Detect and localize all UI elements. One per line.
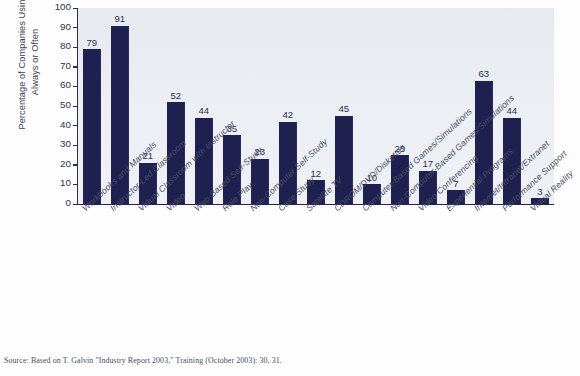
bar-slot: 79 (79, 8, 107, 204)
bar-value-label: 44 (191, 105, 217, 116)
y-axis-tick-label: 10 (45, 177, 71, 188)
y-axis-tick-label: 40 (45, 119, 71, 130)
chart-figure: Percentage of Companies Using Always or … (0, 0, 580, 376)
bar-value-label: 63 (471, 68, 497, 79)
bar-value-label: 79 (79, 37, 105, 48)
x-axis-labels: Workbooks and ManualsInstructor-Led Clas… (77, 206, 577, 346)
source-note: Source: Based on T. Galvin "Industry Rep… (4, 356, 282, 365)
y-axis-title-line-2: Always or Often (29, 0, 42, 152)
y-axis-tick-label: 70 (45, 60, 71, 71)
bar-value-label: 52 (163, 90, 189, 101)
y-axis-title-line-1: Percentage of Companies Using (16, 0, 29, 152)
y-axis-tick-label: 30 (45, 138, 71, 149)
bar-value-label: 42 (275, 109, 301, 120)
y-axis-tick-label: 100 (45, 1, 71, 12)
y-axis-tick-label: 60 (45, 79, 71, 90)
y-axis-tick-label: 80 (45, 40, 71, 51)
bar-value-label: 45 (331, 103, 357, 114)
y-axis-tick-label: 0 (45, 197, 71, 208)
bar-slot: 45 (331, 8, 359, 204)
y-axis-tick-label: 90 (45, 21, 71, 32)
bar-slot: 23 (247, 8, 275, 204)
bar-value-label: 91 (107, 13, 133, 24)
bar-slot: 12 (303, 8, 331, 204)
bar[interactable] (83, 49, 101, 204)
y-axis-tick-label: 20 (45, 158, 71, 169)
bar-slot: 44 (191, 8, 219, 204)
y-axis-tick-label: 50 (45, 99, 71, 110)
y-axis-title: Percentage of Companies Using Always or … (16, 0, 44, 152)
